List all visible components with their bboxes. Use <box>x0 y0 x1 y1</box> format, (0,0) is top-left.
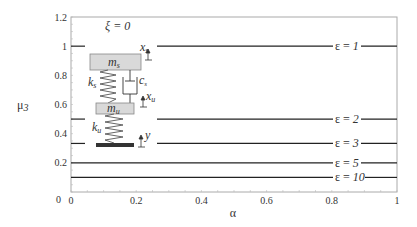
y-axis-label: μ3 <box>17 98 28 113</box>
y-tick-label: 0.8 <box>55 70 68 81</box>
x-tick-label: 0.6 <box>260 195 273 206</box>
y-tick-label: 1.2 <box>55 12 68 23</box>
series-label: ε = 10 <box>335 170 365 184</box>
damper-icon <box>123 70 137 103</box>
series-label: ε = 2 <box>335 112 359 126</box>
x-axis-label: α <box>230 206 237 220</box>
chart: 0.20.40.60.811.2 00.20.40.60.81 ε = 1ε =… <box>0 0 417 227</box>
y-tick-label: 0.4 <box>55 128 68 139</box>
spring-ks-label: ks <box>88 75 96 90</box>
xu-label: xu <box>145 89 155 104</box>
y-tick-label: 0.2 <box>55 157 68 168</box>
y-road-label: y <box>144 128 151 142</box>
quarter-car-diagram: ms ks cs mu ku xs xu y <box>88 40 155 147</box>
spring-ku-icon <box>105 114 123 143</box>
spring-ks-icon <box>100 70 116 103</box>
x-tick-label: 0.4 <box>195 195 208 206</box>
x-tick-label: 0.2 <box>130 195 143 206</box>
x-tick-label: 0 <box>69 195 74 206</box>
x-tick-label: 0.8 <box>326 195 339 206</box>
x-tick-label: 1 <box>395 195 400 206</box>
y-axis: 0.20.40.60.811.2 <box>55 12 74 193</box>
series-label: ε = 5 <box>335 156 359 170</box>
spring-ku-label: ku <box>92 120 101 135</box>
series-label: ε = 3 <box>335 136 359 150</box>
xi-annotation: ξ = 0 <box>105 19 130 33</box>
y-origin-label: 0 <box>56 194 61 205</box>
xs-label: xs <box>139 40 148 55</box>
y-tick-label: 1 <box>62 41 67 52</box>
damper-label: cs <box>139 73 147 88</box>
series-label: ε = 1 <box>335 39 359 53</box>
road-ground <box>96 143 134 147</box>
y-tick-label: 0.6 <box>55 99 68 110</box>
